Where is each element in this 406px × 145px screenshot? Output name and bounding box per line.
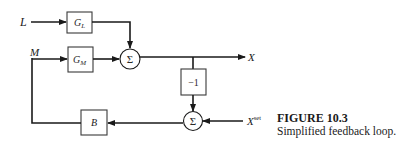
- block-gm: GM: [68, 47, 93, 72]
- block-gl-base: G: [74, 17, 81, 28]
- block-b: B: [81, 110, 107, 135]
- sigma-icon: Σ: [190, 115, 196, 127]
- setpoint-label: Xset: [246, 114, 261, 127]
- block-gm-base: G: [73, 54, 80, 65]
- block-b-label: B: [91, 117, 97, 128]
- block-neg-one: −1: [181, 69, 206, 95]
- summing-junction-1: Σ: [120, 49, 140, 69]
- block-neg-one-label: −1: [188, 77, 199, 88]
- feedback-loop-diagram: L GL M GM Σ X −1 Σ Xset: [0, 0, 406, 145]
- block-gl: GL: [67, 12, 92, 33]
- output-label-x: X: [247, 51, 256, 63]
- setpoint-label-sup: set: [254, 114, 261, 121]
- figure-caption-text: Simplified feedback loop.: [277, 125, 396, 138]
- input-label-l: L: [19, 15, 27, 29]
- figure-caption-title: FIGURE 10.3: [277, 111, 348, 125]
- summing-junction-2: Σ: [184, 112, 203, 131]
- input-label-m: M: [29, 46, 40, 58]
- block-gm-sub: M: [79, 59, 87, 67]
- sigma-icon: Σ: [127, 53, 133, 65]
- block-gl-sub: L: [80, 22, 85, 30]
- wire-gl-to-sum1: [92, 22, 130, 48]
